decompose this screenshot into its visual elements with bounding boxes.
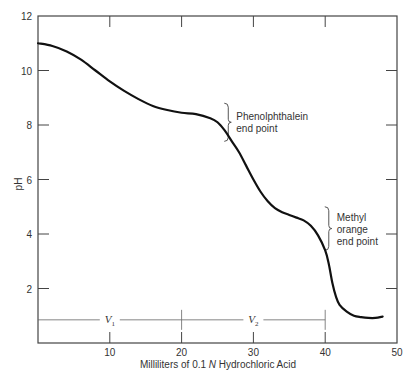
y-tick-label: 2 bbox=[26, 284, 32, 295]
end-point-annotations: Phenolphthaleinend pointMethylorangeend … bbox=[224, 103, 378, 250]
x-tick-label: 50 bbox=[391, 347, 403, 358]
volume-label: V2 bbox=[248, 313, 259, 328]
x-tick-label: 10 bbox=[104, 347, 116, 358]
x-tick-label: 30 bbox=[248, 347, 260, 358]
titration-chart: 102030405024681012 pH Milliliters of 0.1… bbox=[0, 0, 415, 379]
annotation-text: end point bbox=[337, 236, 378, 247]
y-tick-label: 6 bbox=[26, 175, 32, 186]
x-tick-label: 40 bbox=[320, 347, 332, 358]
axis-ticks bbox=[38, 16, 397, 343]
annotation-text: end point bbox=[236, 123, 277, 134]
y-tick-label: 4 bbox=[26, 229, 32, 240]
y-axis-label: pH bbox=[13, 178, 24, 191]
brace-icon bbox=[325, 207, 332, 251]
volume-label: V1 bbox=[105, 313, 116, 328]
annotation-text: Phenolphthalein bbox=[236, 111, 308, 122]
volume-span-markers: V1V2 bbox=[38, 310, 325, 330]
y-tick-label: 12 bbox=[21, 11, 33, 22]
y-tick-label: 8 bbox=[26, 120, 32, 131]
annotation-text: orange bbox=[337, 224, 369, 235]
tick-labels: 102030405024681012 bbox=[21, 11, 403, 358]
plot-frame bbox=[38, 16, 397, 343]
titration-curve bbox=[38, 43, 383, 318]
x-axis-label: Milliliters of 0.1 N Hydrochloric Acid bbox=[140, 359, 296, 370]
y-tick-label: 10 bbox=[21, 66, 33, 77]
annotation-text: Methyl bbox=[337, 212, 366, 223]
x-tick-label: 20 bbox=[176, 347, 188, 358]
